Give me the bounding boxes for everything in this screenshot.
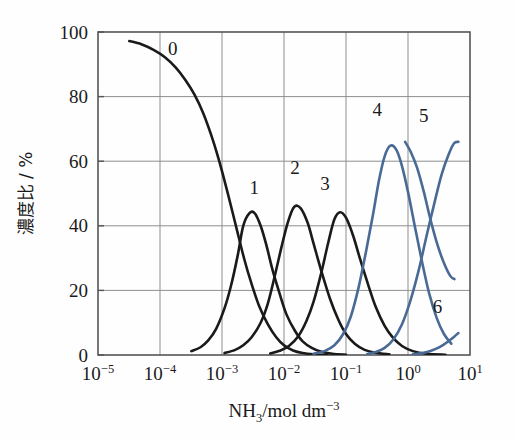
curve-series-0: [129, 41, 327, 355]
x-axis-title: NH3/mol dm−3: [229, 399, 340, 425]
curve-series-1: [191, 212, 346, 355]
curve-label-1: 1: [249, 177, 259, 198]
y-tick-label: 100: [60, 22, 89, 43]
curve-label-5: 5: [419, 105, 429, 126]
y-axis-title: 濃度比 / %: [16, 152, 36, 236]
curve-label-3: 3: [320, 173, 330, 194]
x-tick-label: 10−1: [330, 362, 362, 384]
curve-label-4: 4: [373, 99, 383, 120]
y-axis-title-text: 濃度比 / %: [16, 152, 36, 236]
y-tick-label: 20: [69, 280, 88, 301]
y-tick-label: 80: [69, 86, 88, 107]
curve-labels: 0123456: [168, 38, 442, 317]
x-tick-label: 10−4: [144, 362, 177, 384]
curve-label-2: 2: [290, 157, 300, 178]
x-tick-label: 10−2: [268, 362, 300, 384]
y-tick-label: 0: [79, 345, 89, 366]
curve-label-0: 0: [168, 38, 178, 59]
x-tick-labels: 10−510−410−310−210−1100101: [82, 362, 483, 384]
chart-canvas: 10−510−410−310−210−1100101 020406080100 …: [0, 0, 514, 440]
curve-label-6: 6: [433, 296, 443, 317]
y-tick-label: 40: [69, 215, 88, 236]
x-tick-label: 101: [457, 362, 482, 384]
x-axis-title-text: NH3/mol dm−3: [229, 399, 340, 425]
speciation-chart-figure: 10−510−410−310−210−1100101 020406080100 …: [0, 0, 514, 440]
x-tick-label: 10−3: [206, 362, 238, 384]
data-curves: [129, 41, 458, 355]
x-tick-label: 100: [395, 362, 420, 384]
y-tick-label: 60: [69, 151, 88, 172]
